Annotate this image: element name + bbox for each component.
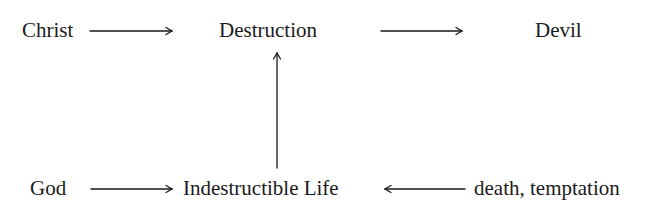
arrow-christ-to-destruction [90,28,172,35]
arrow-destruction-to-devil [381,28,462,35]
arrow-death-to-life [385,186,465,193]
arrows-layer [0,0,672,217]
arrow-god-to-life [91,186,172,193]
arrow-life-to-destruction [274,53,281,168]
